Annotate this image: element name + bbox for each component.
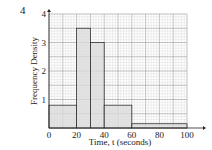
x-axis-arrow-icon — [203, 126, 206, 130]
histogram-bar — [104, 105, 132, 128]
histogram-bar — [49, 105, 77, 128]
histogram-bar — [77, 28, 91, 128]
histogram-bar — [90, 43, 104, 129]
x-tick-label: 100 — [180, 130, 194, 140]
y-tick-label: 4 — [42, 9, 47, 19]
histogram-bar — [132, 124, 187, 128]
x-axis-label: Time, t (seconds) — [89, 137, 151, 147]
y-tick-label: 2 — [42, 66, 47, 76]
y-tick-label: 1 — [42, 95, 47, 105]
y-axis-arrow-icon — [47, 9, 51, 12]
x-tick-label: 80 — [155, 130, 165, 140]
histogram-chart: 0204060801001234Time, t (seconds)Frequen… — [0, 0, 212, 150]
y-axis-label: Frequency Density — [29, 36, 39, 105]
x-tick-label: 0 — [47, 130, 52, 140]
x-tick-label: 20 — [72, 130, 82, 140]
y-tick-label: 3 — [42, 38, 47, 48]
